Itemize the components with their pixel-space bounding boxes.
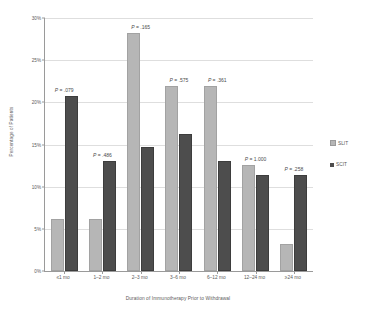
p-value-annotation: P = 1.000 bbox=[245, 156, 267, 162]
bar-slit bbox=[127, 33, 140, 271]
x-tick-label: ≥24 mo bbox=[274, 275, 312, 280]
chart-legend: SLIT SCIT bbox=[330, 140, 348, 183]
bar-slit bbox=[204, 86, 217, 271]
p-value-annotation: P = .361 bbox=[208, 77, 227, 83]
y-tick-label: 5% bbox=[34, 226, 41, 231]
plot-area: 0%5%10%15%20%25%30% P = .079P = .486P = … bbox=[44, 18, 313, 272]
p-value-annotation: P = .486 bbox=[93, 152, 112, 158]
legend-label-scit: SCIT bbox=[336, 162, 347, 167]
y-tick-label: 25% bbox=[32, 58, 41, 63]
bar-scit bbox=[103, 161, 116, 271]
x-tick-mark bbox=[217, 271, 218, 274]
y-tick-label: 0% bbox=[34, 269, 41, 274]
x-axis-title: Duration of Immunotherapy Prior to Withd… bbox=[44, 296, 312, 301]
bar-groups: P = .079P = .486P = .165P = .575P = .361… bbox=[45, 18, 313, 271]
bar-scit bbox=[141, 147, 154, 271]
y-tick-label: 30% bbox=[32, 16, 41, 21]
bar-group: P = .079 bbox=[45, 18, 83, 271]
x-tick-mark bbox=[294, 271, 295, 274]
bar-slit bbox=[242, 165, 255, 271]
bar-slit bbox=[51, 219, 64, 271]
y-tick-label: 15% bbox=[32, 142, 41, 147]
bar-group: P = .165 bbox=[122, 18, 160, 271]
bar-scit bbox=[256, 175, 269, 271]
bar-scit bbox=[218, 161, 231, 271]
bar-slit bbox=[89, 219, 102, 271]
x-tick-label: ≤1 mo bbox=[44, 275, 82, 280]
legend-swatch-slit-icon bbox=[330, 140, 336, 146]
bar-scit bbox=[179, 134, 192, 271]
p-value-annotation: P = .079 bbox=[55, 87, 74, 93]
x-tick-label: 3–6 mo bbox=[159, 275, 197, 280]
x-tick-mark bbox=[179, 271, 180, 274]
x-tick-label: 6–12 mo bbox=[197, 275, 235, 280]
bar-group: P = .258 bbox=[275, 18, 313, 271]
p-value-annotation: P = .258 bbox=[284, 166, 303, 172]
bar-group: P = .486 bbox=[83, 18, 121, 271]
y-axis-title-text: Percentage of Patients bbox=[10, 107, 15, 157]
bar-scit bbox=[294, 175, 307, 271]
bar-slit bbox=[280, 244, 293, 271]
bar-slit bbox=[165, 86, 178, 271]
bar-chart: Percentage of Patients 0%5%10%15%20%25%3… bbox=[0, 0, 372, 313]
x-axis-tick-labels: ≤1 mo1–2 mo2–3 mo3–6 mo6–12 mo12–24 mo≥2… bbox=[44, 275, 312, 280]
y-axis-title: Percentage of Patients bbox=[5, 0, 19, 263]
bar-group: P = 1.000 bbox=[236, 18, 274, 271]
x-tick-mark bbox=[141, 271, 142, 274]
x-tick-label: 2–3 mo bbox=[121, 275, 159, 280]
bar-group: P = .361 bbox=[198, 18, 236, 271]
legend-label-slit: SLIT bbox=[338, 141, 348, 146]
legend-item-scit: SCIT bbox=[330, 162, 348, 167]
x-tick-label: 12–24 mo bbox=[235, 275, 273, 280]
bar-scit bbox=[65, 96, 78, 271]
bar-group: P = .575 bbox=[160, 18, 198, 271]
y-tick-label: 20% bbox=[32, 100, 41, 105]
x-tick-mark bbox=[256, 271, 257, 274]
legend-swatch-scit-icon bbox=[330, 163, 334, 167]
x-tick-label: 1–2 mo bbox=[82, 275, 120, 280]
x-tick-mark bbox=[102, 271, 103, 274]
y-tick-label: 10% bbox=[32, 184, 41, 189]
p-value-annotation: P = .165 bbox=[131, 24, 150, 30]
x-tick-mark bbox=[64, 271, 65, 274]
p-value-annotation: P = .575 bbox=[170, 77, 189, 83]
legend-item-slit: SLIT bbox=[330, 140, 348, 146]
